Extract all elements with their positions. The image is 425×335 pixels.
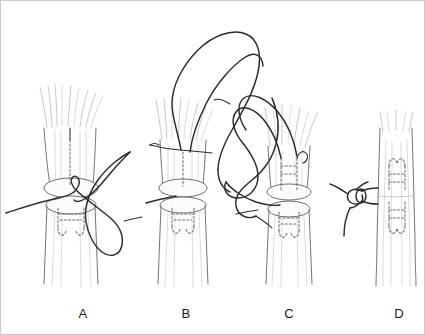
panel-c-suture-stub-upper xyxy=(214,99,230,104)
panel-d-knot xyxy=(347,182,368,208)
panel-d-suture-tail-lower xyxy=(344,208,350,236)
panel-b-proximal-stump xyxy=(156,97,213,186)
panel-c-cut-surface xyxy=(267,184,311,200)
panel-b-distal-stump xyxy=(158,197,208,288)
panel-d-artwork xyxy=(330,110,416,286)
panel-c-distal-stump xyxy=(266,201,312,288)
panel-label-a: A xyxy=(68,306,98,321)
panel-a-suture-stub xyxy=(124,217,142,221)
panel-b-artwork xyxy=(146,32,278,288)
panel-b-large-suture-loop xyxy=(172,32,260,170)
panel-d-suture-tail-upper xyxy=(330,184,348,194)
panel-a-artwork xyxy=(6,84,142,288)
panel-label-b: B xyxy=(171,306,201,321)
panel-a-distal-stump xyxy=(44,196,98,288)
panel-d-tendon xyxy=(376,110,416,286)
panel-a-proximal-stump xyxy=(40,84,103,186)
panel-b-suture-strand-right xyxy=(236,98,278,218)
panel-b-large-suture-loop-inner xyxy=(190,54,263,152)
panel-label-c: C xyxy=(274,306,304,321)
panel-b-suture-free-end xyxy=(256,216,272,228)
figure-container: .fib{stroke:#9a9aa2;stroke-width:0.55;fi… xyxy=(0,0,425,335)
panel-b-needle-tip xyxy=(150,144,159,146)
panel-b-loop-descend xyxy=(218,170,230,192)
panel-c-proximal-stump xyxy=(265,105,317,190)
panel-label-d: D xyxy=(384,306,414,321)
illustration-artwork: .fib{stroke:#9a9aa2;stroke-width:0.55;fi… xyxy=(0,0,425,335)
